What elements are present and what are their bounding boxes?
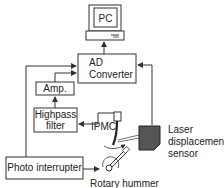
photo-interrupter-label: Photo interrupter	[6, 162, 83, 173]
ipmc-label: IPMC	[91, 121, 116, 132]
amp-label: Amp.	[36, 83, 74, 94]
laser-label-line1: Laser	[168, 124, 193, 135]
highpass-label-line1: Highpass	[34, 109, 77, 120]
rotary-hammer-icon	[103, 146, 130, 171]
rotary-hammer-label: Rotary hummer	[90, 178, 159, 188]
laser-beam	[118, 135, 139, 142]
highpass-label-line2: filter	[34, 120, 77, 131]
ad-label-line1: AD	[89, 57, 103, 68]
laser-label-line2: displacement	[168, 136, 224, 147]
ad-label-line2: Converter	[89, 69, 133, 80]
pc-label: PC	[94, 13, 117, 24]
laser-sensor-icon	[139, 126, 160, 150]
sensor-to-ad-line	[138, 65, 152, 125]
amp-to-ad-line	[55, 73, 76, 82]
diagram-canvas	[0, 0, 224, 188]
laser-label-line3: sensor	[168, 148, 198, 159]
